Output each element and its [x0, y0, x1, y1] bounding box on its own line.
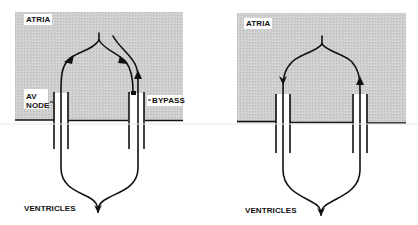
right-ventricles-label: VENTRICLES	[245, 206, 297, 215]
left-ventricles-label: VENTRICLES	[24, 204, 76, 213]
left-panel	[15, 12, 183, 213]
right-ventricle-arrow-icon	[317, 208, 325, 216]
av-node-label: AV NODE	[26, 92, 50, 110]
right-atria-label: ATRIA	[244, 18, 272, 29]
diagram-stage: ATRIA AV NODE BYPASS VENTRICLES ATRIA VE…	[0, 0, 418, 225]
left-bypass-channel	[129, 93, 144, 121]
left-atria-label: ATRIA	[24, 14, 52, 25]
left-av-boundary	[15, 120, 183, 121]
conduction-diagram	[0, 0, 418, 225]
av-block-marker	[131, 91, 136, 95]
bypass-label: BYPASS	[152, 96, 185, 105]
right-panel	[237, 13, 406, 216]
right-atria-region	[237, 13, 406, 123]
